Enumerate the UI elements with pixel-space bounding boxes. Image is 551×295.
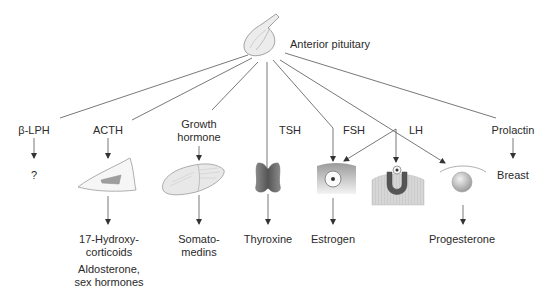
product-estrogen: Estrogen: [311, 233, 355, 246]
hormone-label-growth-hormone: Growth hormone: [177, 118, 220, 144]
pituitary-gland-icon: [244, 14, 279, 56]
hormone-diagram: Anterior pituitary β-LPH ACTH Growth hor…: [0, 0, 551, 295]
line-acth: [132, 58, 252, 120]
product-progesterone: Progesterone: [429, 233, 495, 246]
line-fsh-a: [273, 60, 333, 128]
line-gh: [212, 62, 258, 110]
liver-icon: [163, 164, 225, 195]
hormone-label-b-lph: β-LPH: [18, 124, 49, 137]
ovulating-follicle-icon: [372, 166, 424, 205]
hormone-label-acth: ACTH: [93, 124, 123, 137]
hormone-label-lh: LH: [409, 124, 423, 137]
line-lh-cl: [280, 60, 445, 163]
hormone-label-tsh: TSH: [279, 124, 301, 137]
thyroid-gland-icon: [256, 163, 281, 192]
label-arrows: [34, 138, 513, 160]
adrenal-cortex-cell-icon: [78, 158, 136, 191]
source-label-anterior-pituitary: Anterior pituitary: [290, 38, 370, 51]
target-unknown: ?: [31, 169, 37, 182]
product-thyroxine: Thyroxine: [244, 233, 292, 246]
hormone-label-fsh: FSH: [343, 124, 365, 137]
corpus-luteum-icon: [440, 166, 486, 192]
ovarian-follicle-icon: [317, 163, 356, 194]
line-prolactin: [285, 53, 496, 118]
target-breast: Breast: [497, 169, 529, 182]
product-17-hydroxycorticoids: 17-Hydroxy- corticoids: [79, 233, 139, 259]
product-somatomedins: Somato- medins: [178, 233, 220, 259]
hormone-label-prolactin: Prolactin: [492, 124, 535, 137]
product-aldosterone-sex-hormones: Aldosterone, sex hormones: [74, 263, 143, 289]
